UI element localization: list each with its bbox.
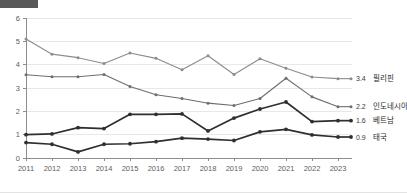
data-point bbox=[77, 56, 80, 59]
data-point bbox=[285, 67, 288, 70]
y-tick-label: 0 bbox=[16, 154, 20, 163]
data-point bbox=[259, 57, 262, 60]
data-point bbox=[24, 133, 28, 137]
data-point bbox=[285, 77, 288, 80]
data-point bbox=[103, 62, 106, 65]
data-point bbox=[180, 136, 184, 140]
data-point bbox=[310, 133, 314, 137]
data-point bbox=[207, 102, 210, 105]
series-line-0 bbox=[26, 39, 338, 79]
series-name-label: 필리핀 bbox=[373, 73, 394, 83]
series-end-labels: 3.4필리핀2.2인도네시아1.6베트남0.9태국 bbox=[338, 73, 407, 141]
x-tick-label: 2017 bbox=[174, 164, 191, 173]
y-tick-label: 2 bbox=[16, 107, 20, 116]
y-tick-label: 3 bbox=[16, 84, 20, 93]
x-tick-label: 2018 bbox=[200, 164, 217, 173]
data-point bbox=[311, 76, 314, 79]
data-point bbox=[207, 54, 210, 57]
x-tick-label: 2013 bbox=[70, 164, 87, 173]
series-group bbox=[24, 38, 340, 154]
series-end-marker bbox=[350, 105, 353, 108]
data-point bbox=[180, 112, 184, 116]
data-point bbox=[50, 132, 54, 136]
x-axis: 2011201220132014201520162017201820192020… bbox=[18, 158, 352, 173]
data-point bbox=[311, 95, 314, 98]
data-point bbox=[259, 97, 262, 100]
data-point bbox=[233, 104, 236, 107]
series-end-marker bbox=[349, 119, 353, 123]
data-point bbox=[25, 38, 28, 41]
x-tick-label: 2015 bbox=[122, 164, 139, 173]
data-point bbox=[232, 139, 236, 143]
y-tick-label: 6 bbox=[16, 14, 20, 23]
bottom-divider bbox=[0, 192, 407, 193]
series-end-marker bbox=[349, 135, 353, 139]
data-point bbox=[284, 127, 288, 131]
data-point bbox=[102, 142, 106, 146]
data-point bbox=[103, 73, 106, 76]
data-point bbox=[155, 57, 158, 60]
data-point bbox=[181, 68, 184, 71]
data-point bbox=[232, 116, 236, 120]
series-end-value: 1.6 bbox=[356, 117, 366, 124]
data-point bbox=[102, 127, 106, 131]
x-tick-label: 2022 bbox=[304, 164, 321, 173]
data-point bbox=[76, 150, 80, 154]
y-tick-label: 1 bbox=[16, 130, 20, 139]
data-point bbox=[310, 120, 314, 124]
series-name-label: 인도네시아 bbox=[373, 101, 407, 111]
x-tick-label: 2014 bbox=[96, 164, 113, 173]
series-end-value: 3.4 bbox=[356, 75, 366, 82]
data-point bbox=[128, 112, 132, 116]
x-tick-label: 2016 bbox=[148, 164, 165, 173]
series-end-marker bbox=[350, 77, 353, 80]
x-tick-label: 2023 bbox=[330, 164, 347, 173]
y-axis: 0123456 bbox=[16, 14, 26, 163]
data-point bbox=[258, 107, 262, 111]
line-chart: 0123456 20112012201320142015201620172018… bbox=[0, 8, 407, 188]
series-line-1 bbox=[26, 74, 338, 106]
data-point bbox=[51, 75, 54, 78]
data-point bbox=[76, 126, 80, 130]
data-point bbox=[155, 93, 158, 96]
series-name-label: 태국 bbox=[373, 133, 387, 142]
data-point bbox=[258, 130, 262, 134]
data-point bbox=[181, 97, 184, 100]
x-tick-label: 2012 bbox=[44, 164, 61, 173]
y-tick-label: 5 bbox=[16, 37, 20, 46]
chart-canvas: 0123456 20112012201320142015201620172018… bbox=[0, 8, 407, 188]
series-end-value: 0.9 bbox=[356, 134, 366, 141]
y-tick-label: 4 bbox=[16, 60, 20, 69]
data-point bbox=[51, 53, 54, 56]
chart-page: 0123456 20112012201320142015201620172018… bbox=[0, 0, 407, 196]
series-line-3 bbox=[26, 129, 338, 152]
data-point bbox=[128, 142, 132, 146]
x-tick-label: 2019 bbox=[226, 164, 243, 173]
data-point bbox=[284, 100, 288, 104]
data-point bbox=[25, 73, 28, 76]
data-point bbox=[50, 142, 54, 146]
data-point bbox=[233, 73, 236, 76]
series-name-label: 베트남 bbox=[373, 116, 394, 125]
data-point bbox=[206, 137, 210, 141]
data-point bbox=[24, 141, 28, 145]
data-point bbox=[206, 129, 210, 133]
top-banner-artifact bbox=[0, 0, 38, 8]
data-point bbox=[77, 75, 80, 78]
data-point bbox=[129, 52, 132, 55]
series-end-value: 2.2 bbox=[356, 103, 366, 110]
data-point bbox=[154, 112, 158, 116]
data-point bbox=[154, 140, 158, 144]
x-tick-label: 2011 bbox=[18, 164, 34, 173]
x-tick-label: 2020 bbox=[252, 164, 269, 173]
x-tick-label: 2021 bbox=[278, 164, 295, 173]
data-point bbox=[129, 85, 132, 88]
